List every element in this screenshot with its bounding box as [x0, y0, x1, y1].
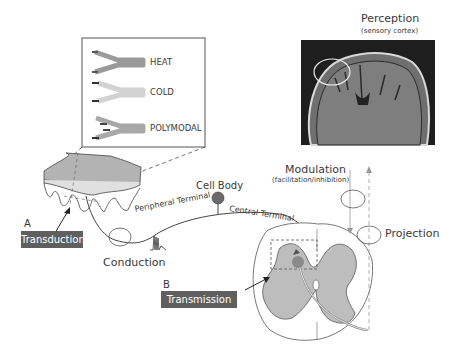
- conduction-label: Conduction: [103, 256, 165, 269]
- transmission-box: Transmission: [161, 291, 237, 308]
- brain-mri-image: [301, 40, 435, 145]
- heat-label: HEAT: [150, 57, 172, 67]
- spinal-cord-section: [253, 223, 372, 340]
- perception-title: Perception: [361, 12, 419, 25]
- cell-body-label: Cell Body: [196, 180, 243, 191]
- perception-subtitle: (sensory cortex): [361, 27, 418, 35]
- pain-pathway-diagram: HEAT COLD POLYMODAL Perception (sensory …: [0, 0, 453, 359]
- cell-body-icon: [212, 192, 224, 204]
- skin-block: [44, 153, 141, 212]
- transduction-box: Transduction: [21, 231, 83, 248]
- modulation-title: Modulation: [285, 163, 346, 176]
- cold-label: COLD: [150, 87, 174, 97]
- projection-label: Projection: [385, 227, 439, 240]
- action-potential-icon: [150, 236, 166, 250]
- transduction-letter: A: [24, 218, 31, 229]
- transmission-letter: B: [163, 279, 170, 290]
- modulation-subtitle: (facilitation/inhibition): [272, 176, 349, 184]
- polymodal-label: POLYMODAL: [150, 123, 202, 133]
